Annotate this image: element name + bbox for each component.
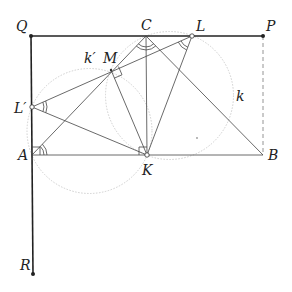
point-M [110,69,112,71]
label-K: K [141,162,154,178]
label-Q: Q [16,18,28,34]
label-k: k [236,88,244,104]
angle-arc-A [40,146,44,155]
point-Lp [30,105,34,109]
label-C: C [141,17,152,33]
label-A: A [16,147,28,163]
geometry-diagram: Q C L P M k′ L′ A K B k R [0,0,292,292]
label-B: B [267,147,278,163]
line-CB [146,36,263,155]
diagram-canvas: Q C L P M k′ L′ A K B k R [0,0,292,292]
line-CK [146,36,147,155]
point-R [31,272,35,276]
center-dot [196,137,198,139]
label-M: M [102,50,118,66]
line-LK [147,36,192,155]
angle-arc-Lp [46,101,47,113]
point-K [145,153,149,157]
label-P: P [265,18,276,34]
label-R: R [19,257,31,273]
point-Q [29,34,33,38]
label-L: L [195,18,205,34]
point-P [261,34,265,38]
angle-arc-Lp2 [43,102,44,111]
angle-arc-L2 [181,41,188,47]
point-L [190,34,194,38]
label-Lp: L′ [13,100,27,116]
label-k-prime: k′ [84,50,96,66]
